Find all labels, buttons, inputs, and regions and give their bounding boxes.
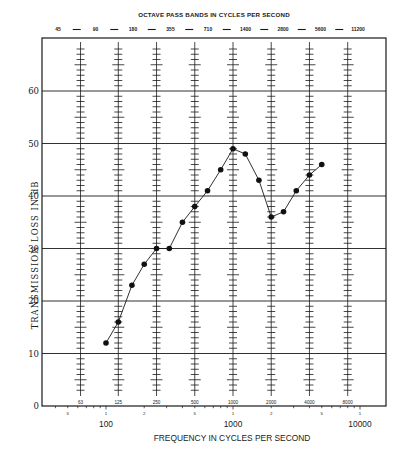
y-tick-label: 0: [34, 401, 39, 411]
ladder-500: [189, 42, 201, 396]
x-minor-tick-label: 1: [105, 411, 108, 416]
y-tick-label: 60: [28, 86, 39, 96]
octave-band-ladders: [75, 42, 354, 396]
ladder-4000: [303, 42, 315, 396]
data-point-markers: [103, 146, 324, 346]
band-edge-label: 180: [129, 26, 138, 32]
data-point: [116, 319, 122, 325]
transmission-loss-chart: OCTAVE PASS BANDS IN CYCLES PER SECOND 4…: [0, 0, 404, 457]
band-center-label: 2000: [266, 400, 277, 405]
ladder-8000: [342, 42, 354, 396]
ladder-63: [75, 42, 87, 396]
data-point: [256, 177, 262, 183]
band-edge-label: 45: [55, 26, 61, 32]
x-major-tick-label: 1000: [224, 419, 243, 429]
ladder-250: [151, 42, 163, 396]
data-point: [192, 204, 198, 210]
octave-bands-title: OCTAVE PASS BANDS IN CYCLES PER SECOND: [138, 11, 290, 18]
data-point: [166, 246, 172, 252]
band-edge-label: 1400: [240, 26, 251, 32]
band-edge-label: 2800: [277, 26, 288, 32]
data-point: [129, 282, 135, 288]
data-point: [268, 214, 274, 220]
x-major-tick-label: 100: [99, 419, 113, 429]
band-edge-label: 710: [204, 26, 213, 32]
x-minor-tick-label: 5: [67, 411, 70, 416]
transmission-loss-line: [106, 149, 322, 343]
band-center-label: 125: [114, 400, 122, 405]
data-point: [218, 167, 224, 173]
x-minor-tick-label: 5: [321, 411, 324, 416]
data-point: [293, 188, 299, 194]
x-major-tick-label: 10000: [348, 419, 372, 429]
data-point: [205, 188, 211, 194]
chart-canvas: OCTAVE PASS BANDS IN CYCLES PER SECOND 4…: [0, 0, 404, 457]
y-tick-label: 10: [28, 349, 39, 359]
data-point: [154, 246, 160, 252]
y-axis-label: TRANSMISSION LOSS IN dB: [30, 181, 40, 330]
data-point: [307, 172, 313, 178]
plot-frame: [42, 38, 386, 406]
band-edge-label: 355: [166, 26, 175, 32]
data-point: [281, 209, 287, 215]
ladder-125: [112, 42, 124, 396]
band-center-label: 500: [191, 400, 199, 405]
band-center-label: 1000: [228, 400, 239, 405]
data-point: [230, 146, 236, 152]
band-edge-label: 5600: [315, 26, 326, 32]
octave-band-center-labels: 631252505001000200040008000: [78, 400, 353, 405]
x-minor-tick-label: 1: [232, 411, 235, 416]
y-tick-label: 50: [28, 139, 39, 149]
octave-band-edge-labels: 459018035571014002800560011200: [55, 26, 365, 32]
data-point: [180, 219, 186, 225]
x-axis-ticks: 51251251100100010000: [55, 406, 372, 429]
band-edge-label: 90: [93, 26, 99, 32]
data-point: [319, 162, 325, 168]
ladder-1000: [227, 42, 239, 396]
band-center-label: 4000: [304, 400, 315, 405]
x-minor-tick-label: 5: [194, 411, 197, 416]
band-center-label: 8000: [343, 400, 354, 405]
band-edge-label: 11200: [351, 26, 365, 32]
data-point: [103, 340, 109, 346]
data-point: [141, 261, 147, 267]
x-axis-label: FREQUENCY IN CYCLES PER SECOND: [154, 433, 311, 443]
horizontal-gridlines: [42, 91, 386, 354]
x-minor-tick-label: 1: [359, 411, 362, 416]
x-minor-tick-label: 2: [143, 411, 146, 416]
data-point: [243, 151, 249, 157]
band-center-label: 250: [153, 400, 161, 405]
x-minor-tick-label: 2: [270, 411, 273, 416]
band-center-label: 63: [78, 400, 84, 405]
